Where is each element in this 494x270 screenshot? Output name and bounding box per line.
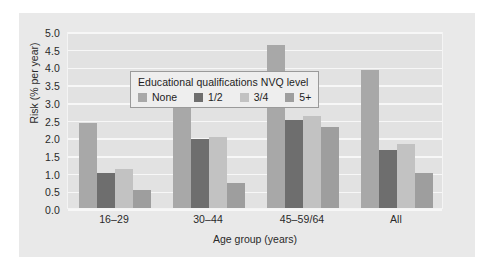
bar xyxy=(79,123,97,208)
legend-item: None xyxy=(138,91,177,103)
bar xyxy=(133,190,151,208)
y-axis-tick-label: 1.5 xyxy=(45,151,60,163)
legend-item: 5+ xyxy=(285,91,311,103)
bar xyxy=(379,150,397,208)
legend-label: None xyxy=(152,91,177,103)
plot-area: Educational qualifications NVQ level Non… xyxy=(67,32,443,209)
x-axis-title: Age group (years) xyxy=(67,233,443,245)
legend-swatch-icon xyxy=(285,93,294,102)
legend-label: 3/4 xyxy=(254,91,269,103)
bar xyxy=(303,116,321,208)
bar xyxy=(209,137,227,208)
y-axis-tick-label: 4.5 xyxy=(45,45,60,57)
y-axis-tick-label: 5.0 xyxy=(45,27,60,39)
bar xyxy=(97,173,115,208)
y-axis-tick-label: 3.0 xyxy=(45,98,60,110)
bar xyxy=(191,139,209,208)
gridline xyxy=(68,138,442,140)
legend-items: None1/23/45+ xyxy=(138,91,311,103)
legend-title: Educational qualifications NVQ level xyxy=(138,76,311,88)
bar xyxy=(227,183,245,208)
gridline xyxy=(68,209,442,211)
legend-label: 1/2 xyxy=(208,91,223,103)
y-axis-tick-labels: 0.00.51.01.52.02.53.03.54.04.55.0 xyxy=(19,32,63,209)
bar xyxy=(267,45,285,208)
bar xyxy=(397,144,415,208)
x-axis-tick-label: 45–59/64 xyxy=(280,213,325,225)
y-axis-tick-label: 1.0 xyxy=(45,169,60,181)
y-axis-tick-label: 2.0 xyxy=(45,133,60,145)
y-axis-tick-label: 0.5 xyxy=(45,186,60,198)
legend-swatch-icon xyxy=(138,93,147,102)
chart-legend: Educational qualifications NVQ level Non… xyxy=(130,71,319,108)
x-axis-tick-label: All xyxy=(390,213,402,225)
legend-swatch-icon xyxy=(240,93,249,102)
x-axis-tick-labels: 16–2930–4445–59/64All xyxy=(67,213,443,229)
gridline xyxy=(68,68,442,70)
legend-label: 5+ xyxy=(299,91,311,103)
x-axis-tick-label: 16–29 xyxy=(99,213,129,225)
y-axis-tick-label: 0.0 xyxy=(45,204,60,216)
gridline xyxy=(68,50,442,52)
legend-item: 1/2 xyxy=(194,91,223,103)
gridline xyxy=(68,32,442,34)
x-axis-tick-label: 30–44 xyxy=(193,213,223,225)
bar xyxy=(361,70,379,208)
bar xyxy=(321,127,339,208)
bar xyxy=(415,173,433,208)
y-axis-tick-label: 4.0 xyxy=(45,62,60,74)
legend-item: 3/4 xyxy=(240,91,269,103)
bar xyxy=(115,169,133,208)
y-axis-tick-label: 3.5 xyxy=(45,80,60,92)
y-axis-tick-label: 2.5 xyxy=(45,116,60,128)
legend-swatch-icon xyxy=(194,93,203,102)
bar xyxy=(173,95,191,208)
gridline xyxy=(68,121,442,123)
bar xyxy=(285,120,303,209)
chart-figure: Risk (% per year) 0.00.51.01.52.02.53.03… xyxy=(19,13,475,257)
